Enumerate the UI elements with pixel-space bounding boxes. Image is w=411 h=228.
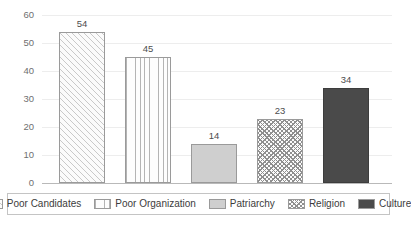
bar-value-label: 34 [323, 75, 369, 85]
y-axis-tick: 40 [23, 66, 34, 76]
y-axis-tick: 60 [23, 10, 34, 20]
legend-swatch-icon [209, 199, 226, 209]
legend-item-label: Culture [379, 199, 411, 209]
bar-value-label: 23 [257, 106, 303, 116]
y-axis-tick: 20 [23, 122, 34, 132]
plot-area: 60 50 40 30 20 10 0 54 45 [0, 0, 399, 190]
legend-item-religion[interactable]: Religion [288, 199, 345, 209]
y-axis-tick: 50 [23, 38, 34, 48]
y-axis-tick: 10 [23, 150, 34, 160]
y-axis-tick: 0 [29, 178, 34, 188]
y-axis: 60 50 40 30 20 10 0 [0, 0, 40, 190]
legend-swatch-icon [94, 199, 111, 209]
bar-culture[interactable] [323, 88, 369, 183]
legend-item-poor-candidates[interactable]: Poor Candidates [0, 199, 81, 209]
legend-item-label: Poor Organization [115, 199, 196, 209]
legend-item-label: Religion [309, 199, 345, 209]
bar-religion[interactable] [257, 119, 303, 183]
legend-item-label: Patriarchy [230, 199, 275, 209]
legend-item-patriarchy[interactable]: Patriarchy [209, 199, 275, 209]
legend-item-poor-organization[interactable]: Poor Organization [94, 199, 196, 209]
bar-value-label: 14 [191, 131, 237, 141]
y-axis-tick: 30 [23, 94, 34, 104]
bar-poor-organization[interactable] [125, 57, 171, 183]
bar-value-label: 54 [59, 19, 105, 29]
legend-item-culture[interactable]: Culture [358, 199, 411, 209]
chart-legend: Poor Candidates Poor Organization Patria… [7, 193, 390, 215]
bar-patriarchy[interactable] [191, 144, 237, 183]
bar-value-label: 45 [125, 44, 171, 54]
legend-swatch-icon [288, 199, 305, 209]
bars: 54 45 14 23 34 [42, 0, 392, 190]
legend-swatch-icon [0, 199, 3, 209]
legend-item-label: Poor Candidates [7, 199, 82, 209]
legend-swatch-icon [358, 199, 375, 209]
bar-poor-candidates[interactable] [59, 32, 105, 183]
